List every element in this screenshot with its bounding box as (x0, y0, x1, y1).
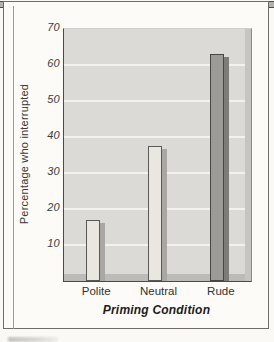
figure-page: Percentage who interrupted 1020304050607… (0, 0, 274, 342)
cutoff-caption-fragment (8, 337, 58, 342)
x-category-label: Rude (186, 285, 256, 297)
x-category-label: Neutral (124, 285, 194, 297)
bar-rude (210, 54, 224, 281)
y-tick-label: 50 (18, 93, 60, 105)
bar-polite (86, 220, 100, 281)
plot-right-shadow (245, 29, 251, 281)
y-tick-label: 60 (18, 57, 60, 69)
bar-drop-shadow (162, 149, 167, 281)
x-category-label: Polite (61, 285, 131, 297)
bar-drop-shadow (224, 57, 229, 281)
bar-drop-shadow (100, 223, 105, 281)
y-tick-label: 30 (18, 165, 60, 177)
y-tick-label: 10 (18, 237, 60, 249)
y-tick-label: 40 (18, 129, 60, 141)
y-tick-label: 20 (18, 201, 60, 213)
y-tick-label: 70 (18, 21, 60, 33)
plot-area (63, 28, 252, 282)
x-axis-title: Priming Condition (63, 303, 250, 317)
bar-neutral (148, 146, 162, 281)
inner-left-rule (13, 6, 14, 329)
